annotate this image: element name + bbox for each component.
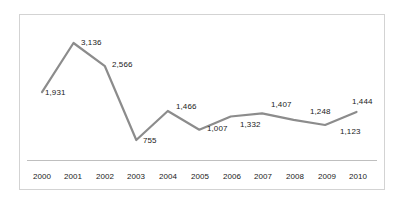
x-tick-2001: 2001: [64, 172, 82, 181]
line-chart: 1,931 3,136 2,566 755 1,466 1,007 1,332 …: [0, 0, 401, 200]
x-tick-2010: 2010: [349, 172, 367, 181]
data-label-2010: 1,444: [352, 97, 373, 106]
x-tick-2006: 2006: [223, 172, 241, 181]
data-label-2009: 1,123: [340, 127, 361, 136]
x-axis-line: [27, 160, 377, 161]
data-label-2005: 1,007: [207, 124, 228, 133]
data-label-2002: 2,566: [112, 60, 133, 69]
x-tick-2000: 2000: [33, 172, 51, 181]
chart-border: [19, 14, 385, 190]
x-tick-2002: 2002: [96, 172, 114, 181]
data-label-2007: 1,407: [271, 100, 292, 109]
x-tick-2007: 2007: [254, 172, 272, 181]
data-label-2003: 755: [143, 136, 157, 145]
data-label-2006: 1,332: [240, 120, 261, 129]
x-tick-2004: 2004: [159, 172, 177, 181]
data-label-2004: 1,466: [176, 102, 197, 111]
x-tick-2009: 2009: [318, 172, 336, 181]
x-tick-2008: 2008: [286, 172, 304, 181]
data-label-2008: 1,248: [310, 107, 331, 116]
x-tick-2005: 2005: [191, 172, 209, 181]
x-tick-2003: 2003: [127, 172, 145, 181]
data-label-2000: 1,931: [45, 88, 66, 97]
data-label-2001: 3,136: [81, 38, 102, 47]
